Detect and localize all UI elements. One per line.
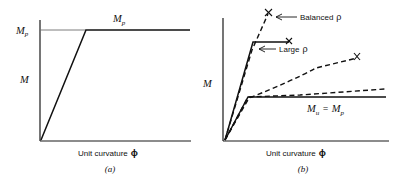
- panel-b-y-axis-label: M: [202, 78, 213, 89]
- panel-a: Mp M Mp Unit curvatureϕ (a): [15, 13, 191, 174]
- panel-b-marker-small-rho: [354, 53, 360, 60]
- panel-b-annotation-balanced-rho: Balancedρ: [300, 12, 341, 22]
- figure-canvas: Mp M Mp Unit curvatureϕ (a): [0, 0, 395, 182]
- panel-b-caption: (b): [298, 164, 309, 174]
- panel-b-marker-balanced-rho: [265, 9, 272, 16]
- panel-b-curve-balanced-rho: [225, 14, 268, 140]
- panel-b-annotation-large-rho: Largeρ: [279, 44, 308, 54]
- panel-a-caption: (a): [105, 164, 116, 174]
- panel-a-x-axis-label: Unit curvatureϕ: [78, 147, 138, 158]
- panel-b-x-axis-label: Unit curvatureϕ: [266, 147, 326, 158]
- panel-a-y-axis-label: M: [19, 74, 30, 85]
- panel-b-marker-large-rho: [286, 38, 292, 44]
- panel-a-curve-label-mp: Mp: [112, 13, 126, 27]
- panel-b: Balancedρ Largeρ Mu=Mp M Unit curvatureϕ…: [202, 9, 389, 174]
- moment-curvature-figure: Mp M Mp Unit curvatureϕ (a): [0, 0, 395, 182]
- panel-b-equation-mu-mp: Mu=Mp: [306, 103, 344, 117]
- panel-a-curve-elastic-plastic: [41, 30, 190, 140]
- panel-a-ytick-mp: Mp: [15, 25, 29, 39]
- panel-b-curve-large-rho: [225, 42, 289, 140]
- panel-b-curve-mu-mp-plateau: [225, 97, 386, 140]
